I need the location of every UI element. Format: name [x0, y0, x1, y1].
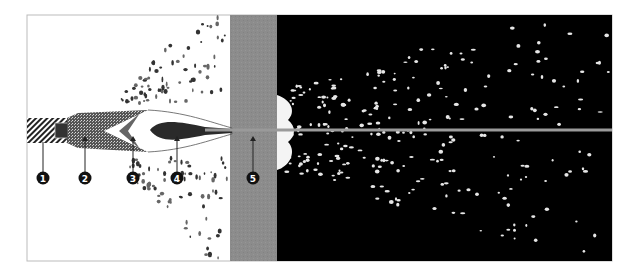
spall-particle — [460, 212, 465, 214]
spall-particle — [303, 153, 307, 155]
spall-particle — [541, 75, 544, 79]
debris-particle — [194, 64, 196, 68]
debris-particle — [206, 64, 209, 70]
debris-particle — [143, 186, 147, 190]
spall-particle — [411, 189, 415, 191]
spall-particle — [328, 110, 330, 114]
debris-particle — [141, 85, 144, 87]
spall-particle — [407, 87, 409, 90]
debris-particle — [198, 70, 201, 74]
debris-particle — [180, 160, 182, 165]
debris-particle — [200, 41, 202, 43]
debris-particle — [148, 181, 152, 186]
spall-particle — [480, 133, 484, 137]
spall-particle — [375, 157, 380, 161]
spall-particle — [583, 170, 588, 173]
spall-particle — [349, 146, 354, 148]
spall-particle — [474, 108, 478, 111]
debris-particle — [160, 192, 164, 196]
debris-particle — [191, 78, 195, 82]
debris-particle — [219, 197, 223, 199]
spall-particle — [333, 95, 337, 98]
spall-particle — [342, 104, 346, 106]
callout-1: 1 — [37, 172, 50, 185]
spall-particle — [371, 185, 376, 188]
debris-particle — [176, 60, 180, 63]
debris-particle — [220, 87, 223, 92]
spall-particle — [445, 96, 448, 98]
spall-particle — [516, 140, 519, 142]
spall-particle — [408, 56, 411, 59]
spall-particle — [545, 208, 549, 211]
debris-particle — [192, 88, 194, 92]
debris-particle — [215, 190, 218, 195]
spall-particle — [321, 96, 326, 99]
spall-particle — [395, 197, 397, 200]
spall-particle — [299, 162, 303, 165]
spall-particle — [578, 150, 581, 153]
shaped-charge-diagram: 1 2 3 4 5 — [0, 0, 636, 274]
debris-particle — [195, 174, 198, 180]
spall-particle — [442, 143, 446, 147]
debris-particle — [207, 194, 210, 200]
spall-particle — [445, 194, 447, 197]
spall-particle — [578, 108, 581, 110]
spall-particle — [441, 183, 445, 186]
spall-particle — [598, 111, 603, 113]
spall-particle — [376, 132, 381, 136]
spall-particle — [450, 52, 453, 55]
spall-particle — [484, 86, 488, 88]
callout-2-label: 2 — [82, 174, 88, 184]
spall-particle — [436, 160, 439, 163]
spall-particle — [535, 50, 540, 54]
spall-particle — [385, 190, 390, 193]
debris-particle — [157, 200, 161, 204]
spall-particle — [568, 170, 572, 172]
debris-particle — [203, 65, 207, 68]
debris-particle — [204, 253, 208, 256]
spall-particle — [429, 119, 432, 121]
debris-particle — [129, 166, 131, 169]
spall-particle — [440, 159, 444, 161]
debris-particle — [215, 22, 219, 27]
spall-particle — [393, 90, 397, 92]
debris-particle — [188, 172, 192, 175]
spall-particle — [507, 203, 511, 207]
spall-particle — [471, 49, 476, 51]
spall-particle — [380, 186, 384, 188]
debris-particle — [136, 161, 140, 166]
spall-particle — [378, 74, 380, 76]
spall-particle — [498, 192, 500, 194]
spall-particle — [303, 92, 306, 94]
spall-particle — [318, 172, 323, 176]
debris-particle — [159, 67, 162, 69]
spall-particle — [536, 60, 540, 63]
spall-particle — [470, 61, 473, 63]
callout-4: 4 — [171, 172, 184, 185]
spall-particle — [552, 79, 556, 83]
spall-particle — [439, 150, 444, 154]
spall-particle — [446, 66, 449, 68]
spall-particle — [297, 85, 302, 87]
spall-particle — [452, 212, 456, 214]
spall-particle — [554, 106, 559, 108]
spall-particle — [461, 58, 465, 61]
spall-particle — [444, 66, 446, 69]
spall-particle — [317, 162, 319, 165]
spall-particle — [348, 99, 351, 102]
debris-particle — [209, 25, 212, 29]
callout-2: 2 — [79, 172, 92, 185]
spall-particle — [381, 70, 385, 74]
spall-particle — [310, 123, 312, 126]
debris-particle — [155, 94, 157, 99]
spall-particle — [342, 164, 346, 166]
debris-particle — [158, 88, 160, 92]
spall-particle — [481, 104, 486, 108]
spall-particle — [337, 172, 340, 175]
spall-particle — [298, 155, 301, 157]
debris-particle — [206, 75, 210, 79]
debris-particle — [224, 35, 226, 37]
debris-particle — [190, 236, 192, 238]
jet-stream — [205, 129, 612, 132]
debris-particle — [183, 54, 185, 58]
